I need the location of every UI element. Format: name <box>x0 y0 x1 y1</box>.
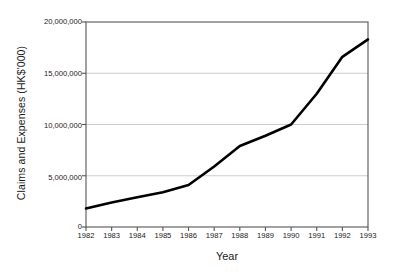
line-chart: Claims and Expenses (HK$'000) 20,000,000… <box>0 0 401 278</box>
data-series-line <box>86 39 368 208</box>
gridlines <box>86 73 368 176</box>
plot-area <box>0 0 401 278</box>
